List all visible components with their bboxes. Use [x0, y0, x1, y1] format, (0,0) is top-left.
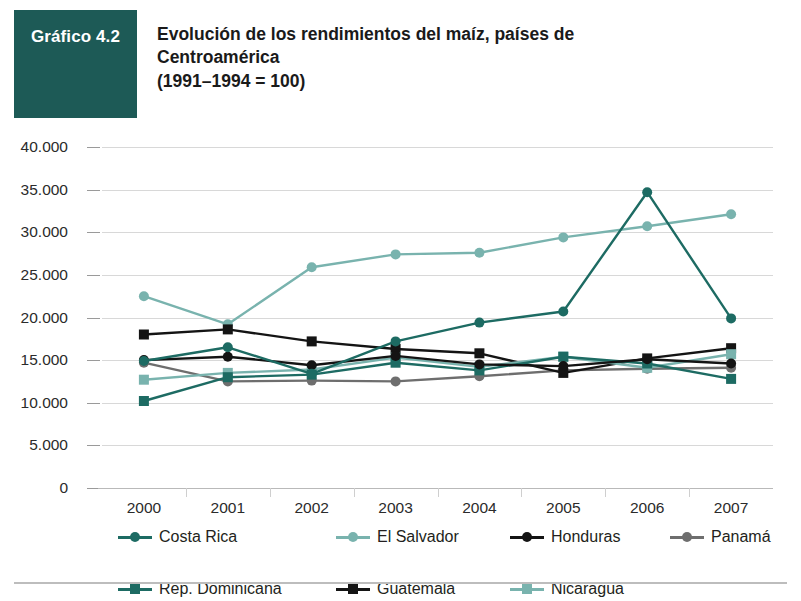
legend-row-2: Rep. DominicanaGuatemalaNicaragua	[118, 554, 778, 580]
data-point-marker	[474, 359, 484, 369]
data-point-marker	[726, 313, 736, 323]
data-point-marker	[726, 209, 736, 219]
x-tick-label: 2006	[630, 499, 664, 517]
x-tick-label: 2001	[211, 499, 245, 517]
data-point-marker	[726, 374, 736, 384]
data-point-marker	[139, 291, 149, 301]
y-tick-dash	[87, 360, 100, 361]
data-point-marker	[223, 352, 233, 362]
data-point-marker	[726, 349, 736, 359]
data-point-marker	[558, 352, 568, 362]
legend-item-panam[interactable]: Panamá	[670, 528, 771, 546]
data-point-marker	[139, 396, 149, 406]
x-tick-separator	[605, 488, 606, 497]
x-tick-label: 2004	[462, 499, 496, 517]
legend-swatch-icon	[510, 530, 544, 544]
x-tick-label: 2003	[378, 499, 412, 517]
data-point-marker	[223, 324, 233, 334]
data-point-marker	[558, 361, 568, 371]
series-el-salvador	[139, 209, 736, 329]
data-point-marker	[139, 375, 149, 385]
chart-title: Evolución de los rendimientos del maíz, …	[157, 10, 574, 93]
y-tick-dash	[87, 403, 100, 404]
data-point-marker	[391, 249, 401, 259]
data-point-marker	[391, 336, 401, 346]
data-point-marker	[558, 307, 568, 317]
data-point-marker	[642, 221, 652, 231]
data-point-marker	[223, 372, 233, 382]
y-tick-label: 0	[0, 479, 68, 497]
x-tick-separator	[689, 488, 690, 497]
series-lines	[102, 147, 773, 488]
legend-swatch-icon	[118, 582, 152, 596]
y-tick-dash	[87, 190, 100, 191]
data-point-marker	[307, 369, 317, 379]
data-point-marker	[223, 342, 233, 352]
x-tick-label: 2000	[127, 499, 161, 517]
data-point-marker	[307, 336, 317, 346]
y-tick-dash	[87, 147, 100, 148]
data-point-marker	[307, 262, 317, 272]
footer-rule	[14, 582, 787, 584]
data-point-marker	[642, 354, 652, 364]
y-tick-label: 25.000	[0, 266, 68, 284]
y-tick-dash	[87, 275, 100, 276]
legend-item-el-salvador[interactable]: El Salvador	[336, 528, 459, 546]
chart-number-badge: Gráfico 4.2	[14, 10, 137, 118]
x-tick-separator	[354, 488, 355, 497]
legend-item-costa-rica[interactable]: Costa Rica	[118, 528, 237, 546]
data-point-marker	[474, 348, 484, 358]
y-tick-dash	[87, 445, 100, 446]
legend-swatch-icon	[336, 530, 370, 544]
data-point-marker	[474, 318, 484, 328]
x-tick-separator	[438, 488, 439, 497]
y-tick-label: 10.000	[0, 394, 68, 412]
legend-item-honduras[interactable]: Honduras	[510, 528, 620, 546]
chart-header: Gráfico 4.2 Evolución de los rendimiento…	[14, 10, 787, 118]
plot-area: 05.00010.00015.00020.00025.00030.00035.0…	[102, 147, 773, 488]
x-tick-label: 2007	[714, 499, 748, 517]
chart-figure: Gráfico 4.2 Evolución de los rendimiento…	[0, 0, 801, 601]
x-tick-label: 2005	[546, 499, 580, 517]
legend-swatch-icon	[336, 582, 370, 596]
legend-label: El Salvador	[377, 528, 459, 546]
x-axis-line	[98, 488, 773, 489]
x-tick-separator	[186, 488, 187, 497]
legend-swatch-icon	[510, 582, 544, 596]
data-point-marker	[139, 356, 149, 366]
y-tick-label: 40.000	[0, 138, 68, 156]
y-tick-label: 15.000	[0, 351, 68, 369]
legend-label: Honduras	[551, 528, 620, 546]
legend-label: Costa Rica	[159, 528, 237, 546]
data-point-marker	[558, 232, 568, 242]
y-tick-label: 5.000	[0, 436, 68, 454]
data-point-marker	[391, 351, 401, 361]
data-point-marker	[139, 330, 149, 340]
x-tick-separator	[521, 488, 522, 497]
data-point-marker	[726, 359, 736, 369]
y-tick-dash	[87, 232, 100, 233]
y-tick-label: 30.000	[0, 223, 68, 241]
legend-label: Panamá	[711, 528, 771, 546]
legend-swatch-icon	[118, 530, 152, 544]
legend-row-1: Costa RicaEl SalvadorHondurasPanamá	[118, 528, 778, 554]
series-line	[144, 214, 731, 324]
chart-legend: Costa RicaEl SalvadorHondurasPanamá Rep.…	[118, 528, 778, 580]
y-tick-dash	[87, 318, 100, 319]
y-tick-label: 20.000	[0, 309, 68, 327]
data-point-marker	[474, 248, 484, 258]
data-point-marker	[391, 376, 401, 386]
legend-swatch-icon	[670, 530, 704, 544]
data-point-marker	[307, 360, 317, 370]
x-tick-separator	[270, 488, 271, 497]
y-tick-label: 35.000	[0, 181, 68, 199]
x-tick-label: 2002	[294, 499, 328, 517]
data-point-marker	[642, 187, 652, 197]
